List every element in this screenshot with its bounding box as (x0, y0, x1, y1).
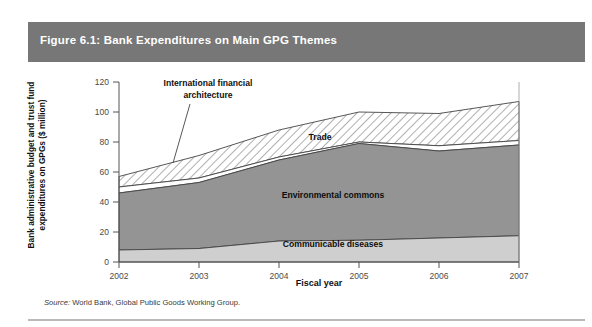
y-tick-0: 0 (104, 257, 109, 267)
y-axis-ticks (113, 82, 119, 262)
y-axis-tick-labels: 0 20 40 60 80 100 120 (95, 77, 109, 267)
figure-header-bar: Figure 6.1: Bank Expenditures on Main GP… (28, 22, 585, 62)
x-axis-title: Fiscal year (119, 278, 519, 288)
y-tick-100: 100 (95, 107, 109, 117)
annotation-environmental-commons: Environmental commons (282, 190, 385, 200)
x-axis-ticks (119, 262, 519, 268)
source-label: Source: (44, 298, 70, 307)
y-tick-60: 60 (100, 167, 110, 177)
y-tick-80: 80 (100, 137, 110, 147)
annotation-international-financial-architecture-line2: architecture (183, 90, 232, 100)
chart-container: 0 20 40 60 80 100 120 2002 2003 2004 200… (0, 62, 592, 287)
annotation-communicable-diseases: Communicable diseases (283, 239, 384, 249)
annotation-trade: Trade (309, 132, 332, 142)
annotation-international-financial-architecture-line1: International financial (164, 78, 253, 88)
source-text: World Bank, Global Public Goods Working … (70, 298, 240, 307)
y-tick-40: 40 (100, 197, 110, 207)
figure-title: Figure 6.1: Bank Expenditures on Main GP… (40, 34, 337, 46)
y-tick-20: 20 (100, 227, 110, 237)
area-chart: 0 20 40 60 80 100 120 2002 2003 2004 200… (0, 62, 592, 287)
source-note: Source: World Bank, Global Public Goods … (44, 298, 240, 307)
y-axis-title: Bank administrative budget and trust fun… (26, 65, 48, 265)
bottom-rule (28, 319, 585, 321)
y-tick-120: 120 (95, 77, 109, 87)
